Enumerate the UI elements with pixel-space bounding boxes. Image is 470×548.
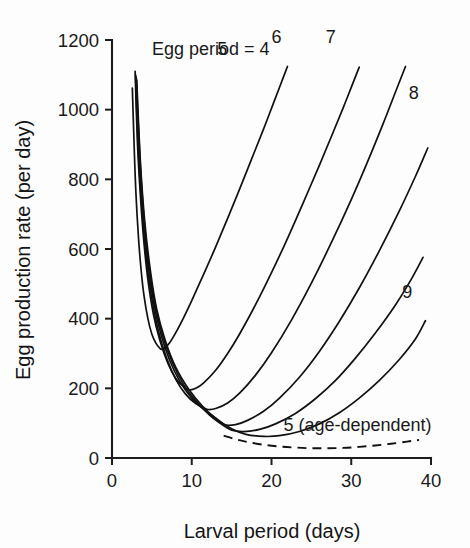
y-axis-tick-label: 600 [68, 239, 99, 260]
y-axis-title: Egg production rate (per day) [12, 120, 34, 380]
curve-label-5: 5 [217, 39, 227, 59]
x-axis-tick-label: 30 [341, 470, 362, 491]
y-axis-tick-label: 1000 [58, 99, 99, 120]
y-axis-tick-label: 1200 [58, 30, 99, 51]
y-axis-tick-label: 200 [68, 378, 99, 399]
x-axis-tick-label: 20 [261, 470, 282, 491]
x-axis-title: Larval period (days) [184, 520, 361, 542]
curves-group [132, 66, 427, 448]
curve-label-9: 9 [402, 282, 412, 302]
curve-label-8: 8 [409, 83, 419, 103]
y-axis-tick-label: 400 [68, 308, 99, 329]
chart-plot-area: 020040060080010001200010203040 Larval pe… [0, 0, 470, 548]
x-axis-tick-label: 40 [421, 470, 442, 491]
curve-label-7: 7 [326, 27, 336, 47]
curve-label-6: 6 [272, 27, 282, 47]
x-axis-tick-label: 10 [181, 470, 202, 491]
x-axis-tick-label: 0 [107, 470, 117, 491]
curve-egg-period-6 [136, 66, 406, 409]
y-axis-tick-label: 0 [89, 448, 99, 469]
y-axis-tick-label: 800 [68, 169, 99, 190]
curve-age-dependent [224, 436, 419, 449]
curve-label-5-age-dependent: 5 (age-dependent) [283, 415, 431, 435]
axes-group [105, 40, 431, 465]
axis-frame [112, 40, 431, 458]
chart-figure: 020040060080010001200010203040 Larval pe… [0, 0, 470, 548]
curve-label-egg-period-4: Egg period = 4 [152, 39, 270, 59]
